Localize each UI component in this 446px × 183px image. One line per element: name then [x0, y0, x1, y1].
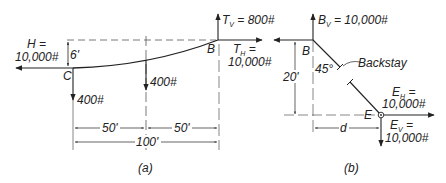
tv-label: TV = 800# — [222, 13, 275, 28]
caption-a: (a) — [138, 161, 153, 175]
load-c-label: 400# — [77, 93, 104, 107]
point-b-b-label: B — [302, 44, 310, 58]
eh-value: 10,000# — [382, 97, 426, 111]
ev-value: 10,000# — [385, 131, 429, 145]
angle-label: 45° — [315, 62, 333, 76]
point-e-label: E — [364, 108, 373, 122]
point-c-label: C — [63, 69, 72, 83]
figure-a: 6' H = 10,000# C 400# 400# B TV = 800# T… — [15, 13, 275, 175]
backstay-label: Backstay — [358, 56, 408, 70]
point-b-a-label: B — [207, 42, 215, 56]
dim-total-label: 100' — [136, 135, 159, 149]
height-label: 20' — [282, 70, 299, 84]
caption-b: (b) — [344, 161, 359, 175]
bv-label: BV = 10,000# — [318, 13, 388, 28]
dim-right-label: 50' — [174, 121, 190, 135]
cable-diagram: 6' H = 10,000# C 400# 400# B TV = 800# T… — [0, 0, 446, 183]
figure-b: BV = 10,000# B 20' 45° Backstay E EH = 1… — [274, 13, 434, 175]
load-mid-label: 400# — [150, 75, 177, 89]
sag-label: 6' — [70, 48, 80, 62]
dim-left-label: 50' — [102, 121, 118, 135]
h-label: H = — [27, 37, 46, 51]
th-value: 10,000# — [228, 55, 272, 69]
h-value: 10,000# — [15, 50, 59, 64]
d-label: d — [340, 121, 347, 135]
